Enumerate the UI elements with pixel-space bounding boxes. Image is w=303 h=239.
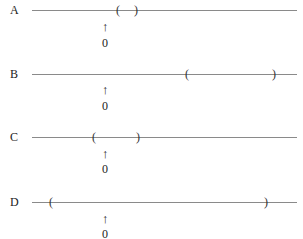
up-arrow-icon: ↑ xyxy=(102,212,109,225)
open-interval-left-paren: ( xyxy=(185,68,189,80)
up-arrow-icon: ↑ xyxy=(102,20,109,33)
zero-marker-label: 0 xyxy=(102,162,108,177)
zero-marker-label: 0 xyxy=(102,99,108,114)
option-label: B xyxy=(10,67,18,82)
zero-marker-label: 0 xyxy=(102,227,108,239)
open-interval-left-paren: ( xyxy=(49,196,53,208)
up-arrow-icon: ↑ xyxy=(102,147,109,160)
number-line xyxy=(32,10,297,11)
zero-marker-label: 0 xyxy=(102,36,108,51)
open-interval-right-paren: ) xyxy=(134,4,138,16)
open-interval-left-paren: ( xyxy=(116,4,120,16)
open-interval-left-paren: ( xyxy=(92,131,96,143)
option-label: A xyxy=(10,3,19,18)
open-interval-right-paren: ) xyxy=(136,131,140,143)
option-label: C xyxy=(10,130,18,145)
number-line xyxy=(32,202,297,203)
number-line xyxy=(32,137,297,138)
up-arrow-icon: ↑ xyxy=(102,83,109,96)
open-interval-right-paren: ) xyxy=(272,68,276,80)
number-line xyxy=(32,74,297,75)
option-label: D xyxy=(10,195,19,210)
open-interval-right-paren: ) xyxy=(264,196,268,208)
